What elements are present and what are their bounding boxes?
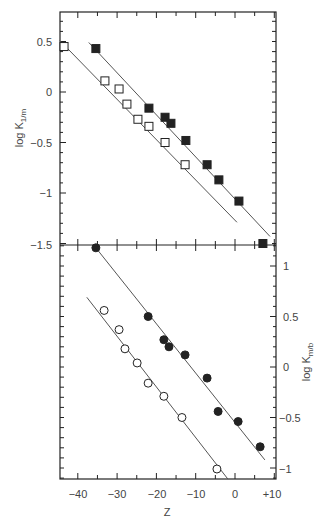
bottom-y-axis-title-sub: m/b bbox=[306, 342, 315, 356]
bottom-y-tick-labels: 1 0.5 0 −0.5 −1 bbox=[279, 260, 301, 475]
top-y-tick-3: −1 bbox=[39, 187, 52, 199]
filled-circle-marker bbox=[165, 343, 173, 351]
open-square-marker bbox=[161, 139, 169, 147]
fit-lines bbox=[60, 40, 270, 479]
filled-square-marker bbox=[182, 136, 190, 144]
filled-square-marker bbox=[167, 119, 175, 127]
open-square-marker bbox=[134, 115, 142, 123]
bottom-y-tick-4: −1 bbox=[279, 463, 292, 475]
x-tick-4: 0 bbox=[232, 488, 238, 500]
top-y-tick-2: −0.5 bbox=[30, 137, 52, 149]
open-circle-marker bbox=[115, 326, 123, 334]
top-fit-line bbox=[89, 43, 270, 237]
bottom-y-tick-3: −0.5 bbox=[279, 412, 301, 424]
top-fit-line bbox=[60, 40, 237, 222]
open-square-marker bbox=[60, 43, 68, 51]
open-circle-marker bbox=[178, 414, 186, 422]
filled-circle-marker bbox=[203, 374, 211, 382]
open-square-marker bbox=[181, 161, 189, 169]
filled-square-marker bbox=[145, 104, 153, 112]
svg-text:log Km/b: log Km/b bbox=[300, 342, 315, 381]
top-y-axis-title-main: log K bbox=[13, 121, 25, 147]
x-tick-3: −10 bbox=[187, 488, 206, 500]
open-circle-marker bbox=[121, 345, 129, 353]
filled-square-marker bbox=[215, 176, 223, 184]
bottom-y-tick-2: 0 bbox=[283, 361, 289, 373]
x-tick-2: −20 bbox=[148, 488, 167, 500]
x-tick-labels: −40 −30 −20 −10 0 +10 bbox=[69, 488, 282, 500]
top-y-tick-0: 0.5 bbox=[37, 36, 52, 48]
top-y-tick-1: 0 bbox=[46, 86, 52, 98]
bottom-y-axis-title: log Km/b bbox=[300, 342, 315, 381]
bottom-y-axis-title-main: log K bbox=[300, 355, 312, 381]
open-circle-marker bbox=[160, 392, 168, 400]
filled-square-marker bbox=[203, 161, 211, 169]
svg-text:log K1/m: log K1/m bbox=[13, 108, 28, 147]
top-y-axis-title-sub: 1/m bbox=[19, 108, 28, 122]
open-circle-marker bbox=[133, 359, 141, 367]
open-square-marker bbox=[101, 77, 109, 85]
open-circle-marker bbox=[144, 379, 152, 387]
top-y-axis-title: log K1/m bbox=[13, 108, 28, 147]
data-points bbox=[60, 43, 267, 473]
filled-circle-marker bbox=[144, 313, 152, 321]
filled-circle-marker bbox=[234, 418, 242, 426]
filled-circle-marker bbox=[181, 351, 189, 359]
open-square-marker bbox=[123, 100, 131, 108]
filled-square-marker bbox=[259, 240, 267, 248]
bottom-y-tick-1: 0.5 bbox=[283, 311, 298, 323]
open-circle-marker bbox=[100, 306, 108, 314]
x-tick-0: −40 bbox=[69, 488, 88, 500]
x-tick-5: +10 bbox=[263, 488, 282, 500]
x-axis-title: Z bbox=[164, 506, 171, 518]
open-square-marker bbox=[145, 122, 153, 130]
top-y-tick-4: −1.5 bbox=[30, 239, 52, 251]
filled-circle-marker bbox=[214, 407, 222, 415]
filled-circle-marker bbox=[160, 336, 168, 344]
top-y-tick-labels: 0.5 0 −0.5 −1 −1.5 bbox=[30, 36, 52, 251]
x-tick-1: −30 bbox=[108, 488, 127, 500]
bottom-fit-line bbox=[96, 248, 265, 460]
chart-figure: 0.5 0 −0.5 −1 −1.5 1 0.5 0 −0.5 −1 −40 −… bbox=[0, 0, 323, 519]
filled-circle-marker bbox=[92, 244, 100, 252]
bottom-y-tick-0: 1 bbox=[283, 260, 289, 272]
filled-square-marker bbox=[92, 45, 100, 53]
filled-square-marker bbox=[235, 197, 243, 205]
open-square-marker bbox=[115, 85, 123, 93]
open-circle-marker bbox=[213, 465, 221, 473]
filled-circle-marker bbox=[256, 443, 264, 451]
